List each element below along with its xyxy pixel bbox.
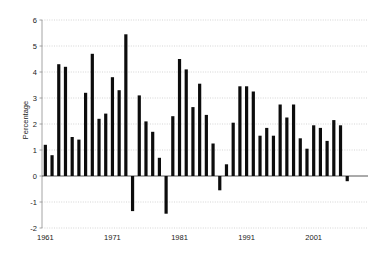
bar — [111, 77, 114, 176]
bar — [238, 86, 241, 176]
y-tick-label: 3 — [33, 94, 37, 103]
bar — [198, 84, 201, 176]
y-axis-title: Percentage — [21, 101, 30, 139]
bar — [165, 176, 168, 214]
y-tick-label: 2 — [33, 120, 37, 129]
y-tick-label: -1 — [30, 198, 37, 207]
bar — [339, 125, 342, 176]
bar — [252, 92, 255, 177]
bar — [185, 69, 188, 176]
bar — [258, 136, 261, 176]
bar — [279, 105, 282, 177]
bar — [272, 136, 275, 176]
x-tick-label: 1981 — [171, 233, 188, 242]
bar — [171, 116, 174, 176]
bar — [91, 54, 94, 176]
bar — [64, 67, 67, 176]
bar — [265, 128, 268, 176]
y-axis-tick-labels: -2-10123456 — [30, 16, 42, 233]
bar — [158, 158, 161, 176]
bar — [346, 176, 349, 181]
bar — [211, 144, 214, 177]
bar — [218, 176, 221, 190]
bar — [245, 86, 248, 176]
bar — [124, 34, 127, 176]
bar — [84, 93, 87, 176]
bar — [332, 120, 335, 176]
bar — [191, 107, 194, 176]
bar — [151, 132, 154, 176]
bar — [71, 137, 74, 176]
bar — [178, 59, 181, 176]
bar — [232, 123, 235, 176]
y-tick-label: 6 — [33, 16, 37, 25]
x-tick-label: 1991 — [238, 233, 255, 242]
bar — [138, 95, 141, 176]
y-tick-label: 5 — [33, 42, 37, 51]
x-axis-tick-labels: 19611971198119912001 — [37, 233, 322, 242]
bar — [131, 176, 134, 211]
bar — [57, 64, 60, 176]
bar — [44, 145, 47, 176]
x-tick-label: 2001 — [305, 233, 322, 242]
x-tick-label: 1971 — [104, 233, 121, 242]
bar — [77, 140, 80, 176]
bar — [299, 138, 302, 176]
bar — [50, 155, 53, 176]
bar — [326, 141, 329, 176]
bar — [144, 121, 147, 176]
chart-canvas: -2-10123456 19611971198119912001 Percent… — [0, 0, 378, 258]
bar — [312, 125, 315, 176]
bar — [285, 118, 288, 177]
bar — [225, 164, 228, 176]
y-tick-label: 1 — [33, 146, 37, 155]
bar — [205, 115, 208, 176]
bar — [97, 119, 100, 176]
bar — [104, 114, 107, 176]
bar — [319, 128, 322, 176]
x-tick-label: 1961 — [37, 233, 54, 242]
y-tick-label: 4 — [33, 68, 37, 77]
y-axis-title-text: Percentage — [21, 101, 30, 139]
y-tick-label: 0 — [33, 172, 37, 181]
bar — [305, 149, 308, 176]
y-tick-label: -2 — [30, 224, 37, 233]
bar-chart-figure: -2-10123456 19611971198119912001 Percent… — [0, 0, 378, 258]
bar — [292, 105, 295, 177]
bar — [118, 90, 121, 176]
